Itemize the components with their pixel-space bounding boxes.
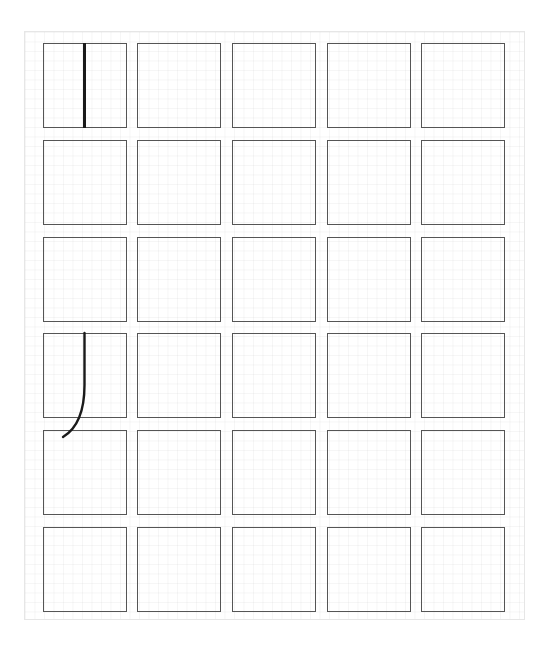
practice-cell-r6-c5 <box>421 527 505 612</box>
practice-cell-r4-c3 <box>232 333 316 418</box>
practice-cell-r3-c4 <box>327 237 411 322</box>
practice-cell-r5-c1 <box>43 430 127 515</box>
practice-cell-r6-c3 <box>232 527 316 612</box>
practice-cell-r6-c2 <box>137 527 221 612</box>
practice-cell-r5-c5 <box>421 430 505 515</box>
practice-cell-r3-c2 <box>137 237 221 322</box>
practice-cell-r4-c5 <box>421 333 505 418</box>
practice-cell-r2-c1 <box>43 140 127 225</box>
practice-cell-r1-c3 <box>232 43 316 128</box>
practice-cell-r5-c2 <box>137 430 221 515</box>
practice-cell-r3-c3 <box>232 237 316 322</box>
practice-cell-r1-c5 <box>421 43 505 128</box>
practice-cell-r2-c3 <box>232 140 316 225</box>
practice-cell-r5-c3 <box>232 430 316 515</box>
practice-cell-r5-c4 <box>327 430 411 515</box>
practice-cell-r2-c4 <box>327 140 411 225</box>
practice-cell-r1-c4 <box>327 43 411 128</box>
practice-cell-r6-c4 <box>327 527 411 612</box>
practice-cell-r1-c2 <box>137 43 221 128</box>
practice-cell-r4-c1 <box>43 333 127 418</box>
practice-cell-r6-c1 <box>43 527 127 612</box>
practice-cell-r3-c5 <box>421 237 505 322</box>
practice-cell-r3-c1 <box>43 237 127 322</box>
practice-cell-r2-c5 <box>421 140 505 225</box>
practice-cell-r1-c1 <box>43 43 127 128</box>
practice-cell-r4-c4 <box>327 333 411 418</box>
practice-cell-r2-c2 <box>137 140 221 225</box>
practice-cell-r4-c2 <box>137 333 221 418</box>
